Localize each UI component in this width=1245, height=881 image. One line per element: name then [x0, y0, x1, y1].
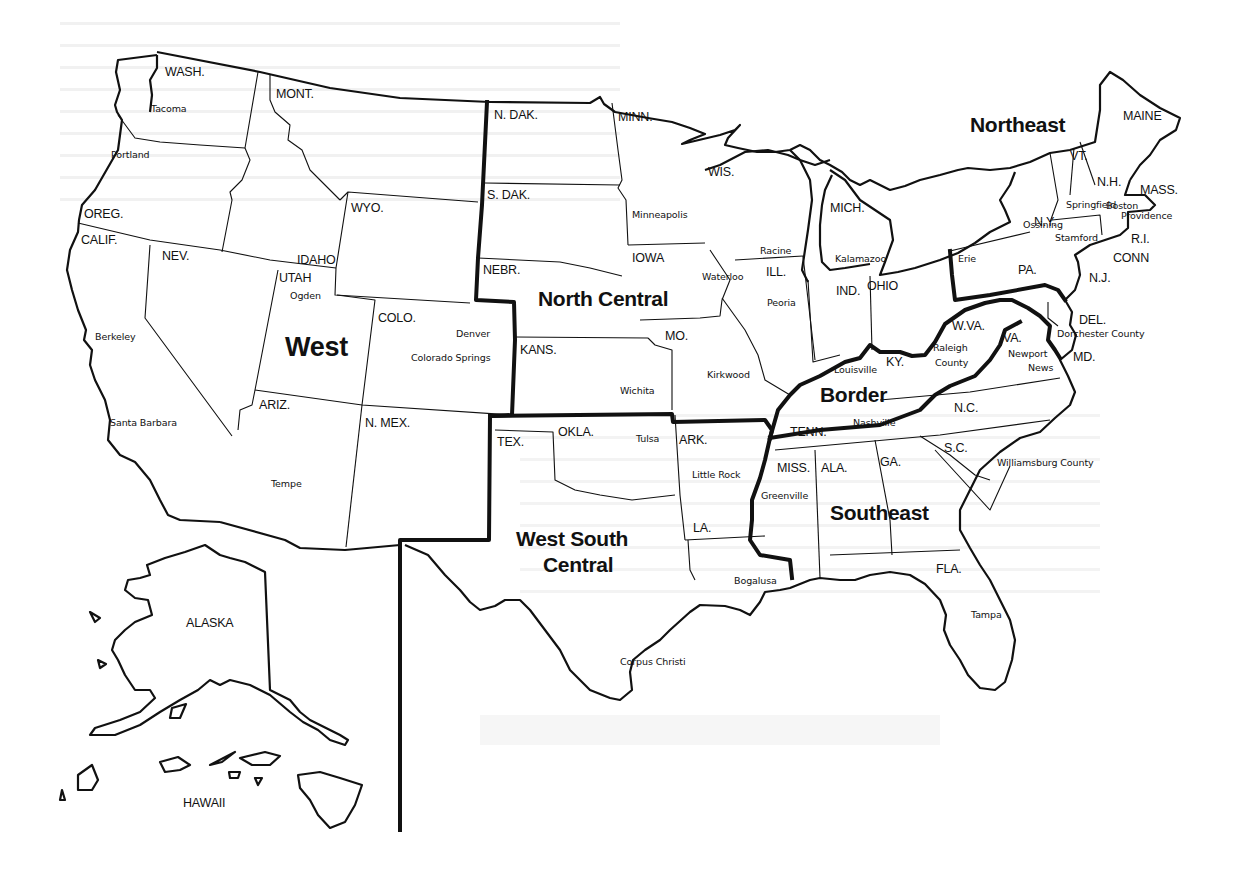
- city-label-erie: Erie: [958, 253, 976, 264]
- city-label-tulsa: Tulsa: [635, 433, 659, 444]
- state-label-idaho: IDAHO: [297, 253, 336, 267]
- state-label-wyo: WYO.: [351, 201, 384, 215]
- coastline: [67, 52, 1180, 700]
- city-label-ogden: Ogden: [290, 290, 321, 301]
- city-label-berkeley: Berkeley: [95, 331, 136, 342]
- us-regions-map: WestNorth CentralNortheastBorderSoutheas…: [0, 0, 1245, 881]
- state-label-fla: FLA.: [936, 562, 962, 576]
- city-label-raleigh: Raleigh: [933, 342, 968, 353]
- state-label-ark: ARK.: [679, 433, 707, 447]
- region-label-west-south-central-1: West South: [516, 527, 628, 550]
- city-label-tacoma: Tacoma: [150, 103, 187, 114]
- city-label-dorchester-county: Dorchester County: [1057, 328, 1145, 339]
- city-label-louisville: Louisville: [834, 364, 877, 375]
- state-label-mont: MONT.: [276, 87, 314, 101]
- state-label-okla: OKLA.: [558, 425, 594, 439]
- state-label-maine: MAINE: [1123, 109, 1162, 123]
- state-label-s-c: S.C.: [944, 441, 968, 455]
- state-label-ind: IND.: [836, 284, 860, 298]
- state-label-conn: CONN: [1113, 251, 1149, 265]
- city-labels: TacomaPortlandOgdenBerkeleyDenverColorad…: [95, 103, 1173, 667]
- city-label-williamsburg-county: Williamsburg County: [997, 457, 1094, 468]
- city-label-corpus-christi: Corpus Christi: [620, 656, 686, 667]
- city-label-greenville: Greenville: [761, 490, 808, 501]
- city-label-providence: Providence: [1121, 210, 1173, 221]
- state-label-calif: CALIF.: [81, 233, 117, 247]
- city-label-colorado-springs: Colorado Springs: [411, 352, 491, 363]
- state-label-n-j: N.J.: [1089, 271, 1110, 285]
- state-label-del: DEL.: [1079, 313, 1106, 327]
- city-label-kalamazoo: Kalamazoo: [835, 253, 886, 264]
- state-label-iowa: IOWA: [632, 251, 665, 265]
- state-label-wash: WASH.: [165, 65, 205, 79]
- state-label-ky: KY.: [886, 355, 904, 369]
- state-label-ala: ALA.: [821, 461, 847, 475]
- region-label-border: Border: [820, 383, 887, 406]
- state-label-n-mex: N. MEX.: [365, 416, 410, 430]
- state-label-tex: TEX.: [497, 435, 524, 449]
- hawaii: [60, 752, 362, 828]
- state-label-hawaii: HAWAII: [183, 796, 225, 810]
- city-label-little-rock: Little Rock: [692, 469, 741, 480]
- state-label-mass: MASS.: [1140, 183, 1178, 197]
- state-label-alaska: ALASKA: [186, 616, 234, 630]
- region-label-west-south-central-2: Central: [543, 553, 613, 576]
- state-label-nebr: NEBR.: [483, 263, 520, 277]
- state-label-md: MD.: [1073, 350, 1095, 364]
- city-label-tempe: Tempe: [270, 478, 302, 489]
- state-label-colo: COLO.: [378, 311, 416, 325]
- state-label-n-c: N.C.: [954, 401, 978, 415]
- state-borders: [78, 72, 1102, 580]
- city-label-portland: Portland: [111, 149, 150, 160]
- state-label-pa: PA.: [1018, 263, 1037, 277]
- city-label-ossining: Ossining: [1023, 219, 1063, 230]
- state-label-w-va: W.VA.: [952, 319, 985, 333]
- state-label-r-i: R.I.: [1131, 232, 1150, 246]
- state-label-wis: WIS.: [708, 165, 734, 179]
- state-label-minn: MINN.: [618, 110, 652, 124]
- city-label-tampa: Tampa: [970, 609, 1002, 620]
- state-label-nev: NEV.: [162, 249, 189, 263]
- state-label-oreg: OREG.: [84, 207, 123, 221]
- city-label-minneapolis: Minneapolis: [632, 209, 688, 220]
- region-label-north-central: North Central: [538, 287, 668, 310]
- state-label-mich: MICH.: [830, 201, 864, 215]
- state-label-va: VA.: [1003, 331, 1022, 345]
- state-label-miss: MISS.: [777, 461, 810, 475]
- city-label-newport: Newport: [1008, 348, 1048, 359]
- city-label-wichita: Wichita: [620, 385, 655, 396]
- state-label-s-dak: S. DAK.: [487, 188, 530, 202]
- state-label-mo: MO.: [665, 329, 688, 343]
- city-label-waterloo: Waterloo: [702, 271, 744, 282]
- city-label-nashville: Nashville: [853, 417, 896, 428]
- state-label-la: LA.: [693, 521, 711, 535]
- city-label-county: County: [935, 357, 969, 368]
- city-label-santa-barbara: Santa Barbara: [110, 417, 177, 428]
- state-label-n-h: N.H.: [1097, 175, 1121, 189]
- state-label-utah: UTAH: [279, 271, 311, 285]
- region-label-northeast: Northeast: [970, 113, 1066, 136]
- state-label-kans: KANS.: [520, 343, 557, 357]
- region-label-southeast: Southeast: [830, 501, 929, 524]
- region-borders: [400, 102, 1065, 830]
- state-label-ga: GA.: [880, 455, 901, 469]
- city-label-racine: Racine: [760, 245, 792, 256]
- city-label-denver: Denver: [456, 328, 490, 339]
- state-label-tenn: TENN.: [790, 425, 827, 439]
- city-label-kirkwood: Kirkwood: [707, 369, 750, 380]
- state-label-ohio: OHIO: [867, 279, 899, 293]
- alaska: [90, 545, 348, 745]
- region-label-west: West: [285, 332, 348, 362]
- city-label-stamford: Stamford: [1055, 232, 1098, 243]
- city-label-bogalusa: Bogalusa: [734, 575, 777, 586]
- city-label-peoria: Peoria: [767, 297, 796, 308]
- state-label-ill: ILL.: [766, 265, 786, 279]
- state-label-vt: VT.: [1070, 149, 1087, 163]
- state-label-n-dak: N. DAK.: [494, 108, 538, 122]
- state-label-ariz: ARIZ.: [259, 398, 290, 412]
- city-label-news: News: [1028, 362, 1053, 373]
